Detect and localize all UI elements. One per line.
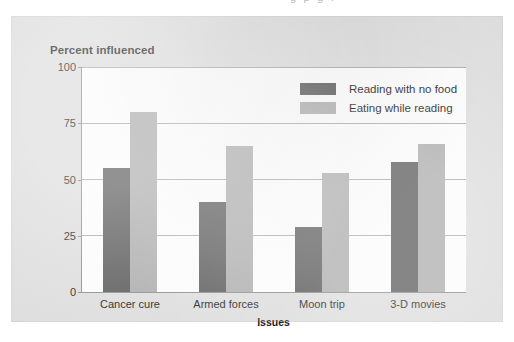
bar bbox=[418, 144, 445, 293]
chart-legend: Reading with no foodEating while reading bbox=[300, 79, 457, 117]
bar bbox=[322, 173, 349, 292]
scanned-page-panel: Percent influenced 0255075100 Cancer cur… bbox=[11, 16, 503, 322]
bar bbox=[103, 168, 130, 292]
legend-swatch bbox=[300, 102, 336, 114]
x-axis-title: Issues bbox=[81, 316, 466, 328]
legend-item: Eating while reading bbox=[300, 98, 457, 117]
bar-group: Cancer cure bbox=[82, 67, 178, 292]
chart-title: Percent influenced bbox=[50, 44, 155, 56]
x-axis-category-label: Moon trip bbox=[299, 298, 345, 310]
bar-group: Armed forces bbox=[178, 67, 274, 292]
legend-label: Reading with no food bbox=[349, 83, 457, 95]
scan-top-text-sliver: g p g . bbox=[0, 0, 514, 12]
bar bbox=[199, 202, 226, 292]
x-axis-category-label: Armed forces bbox=[193, 298, 258, 310]
bar bbox=[391, 162, 418, 293]
x-axis-category-label: 3-D movies bbox=[390, 298, 446, 310]
bar bbox=[130, 112, 157, 292]
legend-label: Eating while reading bbox=[349, 102, 453, 114]
legend-item: Reading with no food bbox=[300, 79, 457, 98]
y-axis-tick-label: 100 bbox=[58, 61, 76, 73]
y-axis-tick-label: 50 bbox=[64, 174, 76, 186]
bar bbox=[226, 146, 253, 292]
bar bbox=[295, 227, 322, 292]
y-axis-tick-mark bbox=[78, 292, 82, 293]
y-axis-tick-label: 0 bbox=[70, 286, 76, 298]
y-axis-tick-label: 25 bbox=[64, 230, 76, 242]
y-axis-tick-label: 75 bbox=[64, 117, 76, 129]
x-axis-category-label: Cancer cure bbox=[100, 298, 160, 310]
scan-top-text-fragment: g p g . bbox=[290, 0, 336, 3]
legend-swatch bbox=[300, 83, 336, 95]
